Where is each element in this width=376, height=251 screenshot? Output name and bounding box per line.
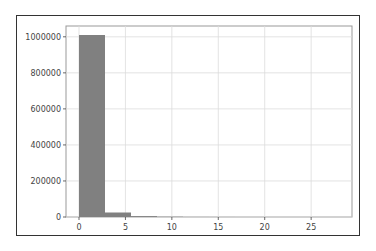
x-tick-label: 5 xyxy=(123,223,128,232)
x-axis: 0510152025 xyxy=(76,217,316,232)
histogram-bar xyxy=(79,35,105,217)
x-tick-label: 15 xyxy=(213,223,223,232)
y-axis: 02000004000006000008000001000000 xyxy=(25,33,66,222)
x-tick-label: 20 xyxy=(260,223,270,232)
histogram-bar xyxy=(131,216,157,217)
histogram-chart: 02000004000006000008000001000000 0510152… xyxy=(0,0,376,251)
x-tick-label: 25 xyxy=(306,223,316,232)
y-tick-label: 0 xyxy=(56,213,61,222)
y-tick-label: 800000 xyxy=(30,69,61,78)
plot-area xyxy=(66,26,352,217)
x-tick-label: 0 xyxy=(76,223,81,232)
y-tick-label: 600000 xyxy=(30,105,61,114)
y-tick-label: 400000 xyxy=(30,141,61,150)
y-tick-label: 1000000 xyxy=(25,33,61,42)
x-tick-label: 10 xyxy=(167,223,177,232)
y-tick-label: 200000 xyxy=(30,177,61,186)
histogram-bar xyxy=(105,212,131,217)
